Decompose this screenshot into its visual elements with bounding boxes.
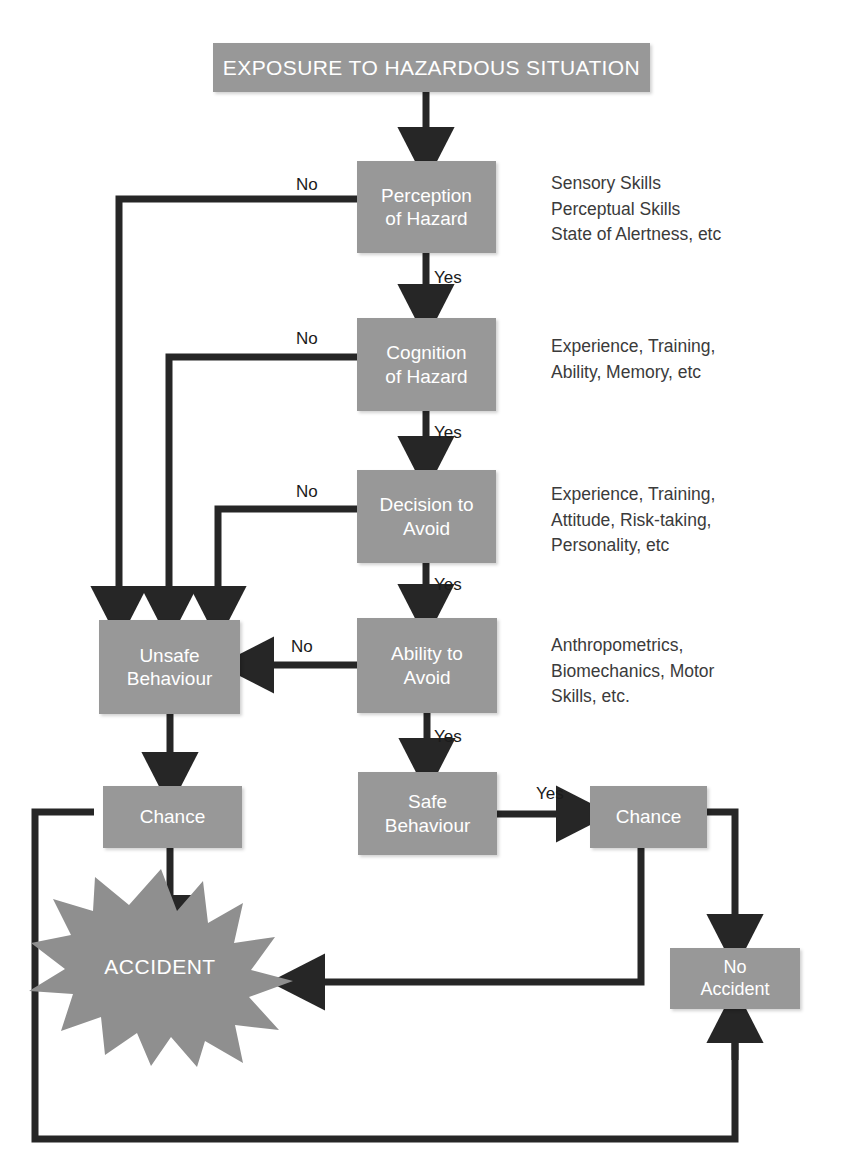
node-decision-to-avoid[interactable]: Decision to Avoid [357, 470, 496, 563]
edge-chance-right-to-accident [300, 848, 641, 982]
node-safe-label: Safe Behaviour [381, 790, 475, 836]
edge-perception-no-unsafe [119, 199, 357, 611]
node-cognition-label: Cognition of Hazard [381, 341, 471, 387]
edge-label-yes-cognition: Yes [434, 423, 462, 443]
note-cognition-factors: Experience, Training, Ability, Memory, e… [551, 334, 821, 385]
edge-label-yes-safe: Yes [536, 784, 564, 804]
flowchart-canvas: EXPOSURE TO HAZARDOUS SITUATION Percepti… [0, 0, 842, 1167]
node-decision-label: Decision to Avoid [376, 493, 478, 539]
edge-decision-no-unsafe [218, 509, 357, 611]
edge-cognition-no-unsafe [169, 357, 357, 611]
node-cognition-of-hazard[interactable]: Cognition of Hazard [357, 318, 496, 411]
node-perception-label: Perception of Hazard [377, 184, 476, 230]
node-unsafe-behaviour[interactable]: Unsafe Behaviour [99, 620, 240, 714]
edge-chance-right-to-no-accident [707, 812, 735, 939]
node-chance-left[interactable]: Chance [103, 786, 242, 848]
node-exposure-label: EXPOSURE TO HAZARDOUS SITUATION [219, 55, 644, 81]
node-ability-label: Ability to Avoid [387, 642, 467, 688]
note-ability-factors: Anthropometrics, Biomechanics, Motor Ski… [551, 633, 821, 710]
node-accident-label: ACCIDENT [60, 955, 260, 979]
node-exposure[interactable]: EXPOSURE TO HAZARDOUS SITUATION [213, 43, 650, 92]
note-perception-factors: Sensory Skills Perceptual Skills State o… [551, 171, 821, 248]
edge-label-no-ability: No [291, 637, 313, 657]
node-perception-of-hazard[interactable]: Perception of Hazard [357, 161, 496, 253]
edge-label-yes-ability: Yes [434, 727, 462, 747]
node-safe-behaviour[interactable]: Safe Behaviour [358, 772, 497, 855]
edge-label-no-perception: No [296, 175, 318, 195]
node-ability-to-avoid[interactable]: Ability to Avoid [357, 618, 497, 713]
node-unsafe-label: Unsafe Behaviour [123, 644, 217, 690]
node-chance-right-label: Chance [612, 805, 686, 828]
node-chance-left-label: Chance [136, 805, 210, 828]
node-chance-right[interactable]: Chance [590, 786, 707, 848]
node-no-accident[interactable]: No Accident [670, 948, 800, 1009]
edge-label-no-decision: No [296, 482, 318, 502]
note-decision-factors: Experience, Training, Attitude, Risk-tak… [551, 482, 821, 559]
edge-label-no-cognition: No [296, 329, 318, 349]
edge-label-yes-decision: Yes [434, 575, 462, 595]
node-no-accident-label: No Accident [696, 957, 773, 1001]
edge-label-yes-perception: Yes [434, 268, 462, 288]
